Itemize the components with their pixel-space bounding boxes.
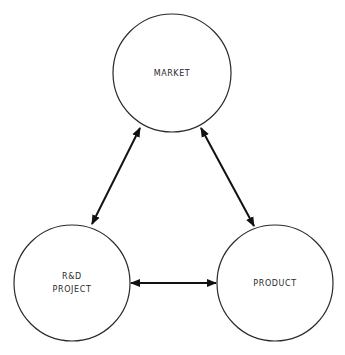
rd-project-label-line2: PROJECT <box>53 285 92 294</box>
arrow-market-rd-project <box>92 128 140 224</box>
market-label: MARKET <box>154 69 191 78</box>
product-label: PRODUCT <box>253 279 296 288</box>
arrow-market-product <box>201 128 254 226</box>
relationship-diagram: MARKET R&D PROJECT PRODUCT <box>0 0 345 355</box>
node-market: MARKET <box>113 14 231 132</box>
node-product: PRODUCT <box>217 225 333 341</box>
rd-project-label-line1: R&D <box>62 272 82 281</box>
rd-project-circle <box>14 225 130 341</box>
node-rd-project: R&D PROJECT <box>14 225 130 341</box>
